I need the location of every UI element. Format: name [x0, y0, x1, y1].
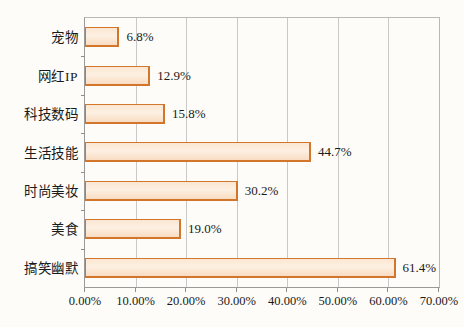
category-label: 生活技能 [24, 142, 78, 162]
bar-value-label: 15.8% [172, 106, 206, 122]
y-axis-tick [81, 95, 85, 96]
x-axis-tick [84, 288, 85, 292]
x-axis-tick [135, 288, 136, 292]
x-axis-tick-label: 70.00% [420, 294, 459, 309]
bar-value-label: 44.7% [318, 144, 352, 160]
x-axis-tick-label: 10.00% [116, 294, 155, 309]
x-axis-tick-label: 0.00% [69, 294, 101, 309]
bar[interactable] [85, 258, 396, 278]
x-axis-tick-label: 50.00% [319, 294, 358, 309]
x-axis-tick [286, 288, 287, 292]
bar-series: 6.8%12.9%15.8%44.7%30.2%19.0%61.4% [85, 18, 439, 287]
y-axis-tick [81, 133, 85, 134]
bar-chart: 宠物网红IP科技数码生活技能时尚美妆美食搞笑幽默 6.8%12.9%15.8%4… [0, 0, 464, 327]
x-axis-tick [185, 288, 186, 292]
x-axis-tick [387, 288, 388, 292]
category-label: 宠物 [51, 26, 78, 46]
x-axis-tick-label: 40.00% [268, 294, 307, 309]
bar-value-label: 30.2% [245, 183, 279, 199]
bar[interactable] [85, 104, 165, 124]
y-axis-tick [81, 172, 85, 173]
bar-row: 30.2% [85, 172, 439, 210]
bar-value-label: 61.4% [403, 260, 437, 276]
category-label: 时尚美妆 [24, 180, 78, 200]
category-label: 科技数码 [24, 103, 78, 123]
bar-value-label: 6.8% [126, 29, 153, 45]
y-axis-tick [81, 249, 85, 250]
category-label: 搞笑幽默 [24, 257, 78, 277]
category-axis: 宠物网红IP科技数码生活技能时尚美妆美食搞笑幽默 [0, 17, 84, 288]
bar-row: 6.8% [85, 18, 439, 56]
y-axis-tick [81, 56, 85, 57]
bar[interactable] [85, 181, 238, 201]
bar-value-label: 12.9% [157, 68, 191, 84]
x-axis-tick [438, 288, 439, 292]
bar[interactable] [85, 219, 181, 239]
bar[interactable] [85, 142, 311, 162]
bar[interactable] [85, 66, 150, 86]
bar-row: 19.0% [85, 210, 439, 248]
category-label: 美食 [51, 218, 78, 238]
x-axis-tick-label: 30.00% [217, 294, 256, 309]
value-axis-labels: 0.00%10.00%20.00%30.00%40.00%50.00%60.00… [0, 294, 464, 318]
bar-row: 12.9% [85, 56, 439, 94]
x-axis-tick-label: 20.00% [167, 294, 206, 309]
x-axis-tick [236, 288, 237, 292]
bar-row: 15.8% [85, 95, 439, 133]
category-label: 网红IP [38, 65, 78, 85]
bar-row: 61.4% [85, 249, 439, 287]
plot-area: 6.8%12.9%15.8%44.7%30.2%19.0%61.4% [84, 17, 440, 288]
bar[interactable] [85, 27, 119, 47]
x-axis-tick-label: 60.00% [369, 294, 408, 309]
y-axis-tick [81, 210, 85, 211]
x-axis-tick [337, 288, 338, 292]
bar-row: 44.7% [85, 133, 439, 171]
bar-value-label: 19.0% [188, 221, 222, 237]
